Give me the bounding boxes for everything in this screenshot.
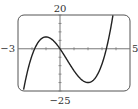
y-min-label: −25 bbox=[49, 95, 70, 106]
viewing-window-frame bbox=[18, 15, 130, 91]
y-max-label: 20 bbox=[54, 3, 67, 14]
function-plot: 20 −25 −3 5 bbox=[0, 0, 138, 109]
x-min-label: −3 bbox=[0, 43, 15, 54]
function-curve bbox=[24, 15, 113, 89]
axis-ticks bbox=[32, 15, 116, 91]
x-max-label: 5 bbox=[132, 43, 138, 54]
